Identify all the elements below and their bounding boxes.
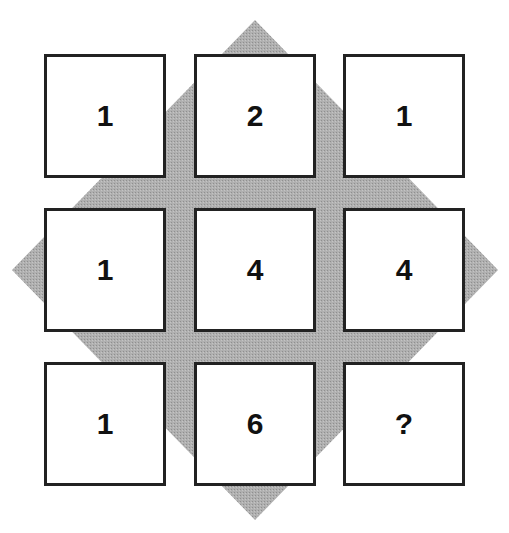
cell-r1-c2: 2	[194, 54, 316, 178]
question-mark: ?	[395, 407, 413, 441]
cell-value: 1	[97, 99, 114, 133]
cell-r3-c3-unknown: ?	[343, 362, 465, 486]
cell-value: 1	[97, 253, 114, 287]
cell-r2-c2: 4	[194, 208, 316, 332]
cell-r1-c1: 1	[44, 54, 166, 178]
cell-r1-c3: 1	[343, 54, 465, 178]
cell-r2-c1: 1	[44, 208, 166, 332]
cell-r3-c1: 1	[44, 362, 166, 486]
cell-value: 2	[247, 99, 264, 133]
cell-value: 4	[396, 253, 413, 287]
cell-value: 1	[97, 407, 114, 441]
cell-value: 6	[247, 407, 264, 441]
cell-r3-c2: 6	[194, 362, 316, 486]
cell-value: 1	[396, 99, 413, 133]
cell-r2-c3: 4	[343, 208, 465, 332]
cell-value: 4	[247, 253, 264, 287]
